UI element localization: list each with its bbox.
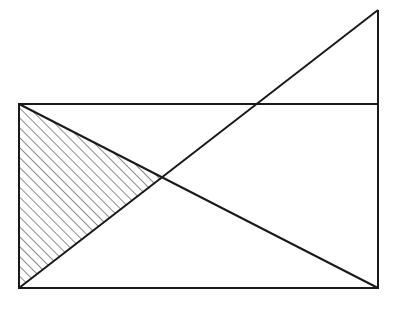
- diagram-canvas: [0, 0, 400, 313]
- geometry-diagram: [0, 0, 400, 313]
- hatched-triangle: [19, 104, 163, 288]
